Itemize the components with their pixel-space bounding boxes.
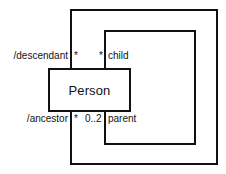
uml-class-diagram-canvas: Person /descendant * * child /ancestor *…: [0, 0, 226, 174]
class-box-person[interactable]: Person: [48, 68, 131, 112]
association-role-ancestor: /ancestor: [26, 113, 69, 125]
association-role-descendant: /descendant: [13, 50, 70, 62]
association-multiplicity-child: *: [98, 50, 104, 62]
association-role-child: child: [107, 50, 130, 62]
class-name-person: Person: [69, 84, 111, 97]
association-multiplicity-descendant: *: [73, 50, 79, 62]
association-multiplicity-ancestor: *: [73, 113, 79, 125]
association-multiplicity-parent: 0..2: [84, 113, 103, 125]
association-role-parent: parent: [107, 113, 137, 125]
